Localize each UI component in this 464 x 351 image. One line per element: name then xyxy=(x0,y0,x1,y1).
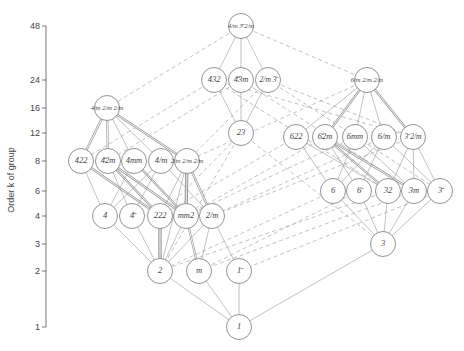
edge-32-2 xyxy=(160,191,388,271)
y-axis-label: Order k of group xyxy=(6,147,16,213)
node-label: 622 xyxy=(290,131,304,141)
node-label: 4/m 3̄ 2/m xyxy=(228,22,254,29)
node-label: m xyxy=(196,265,202,275)
point-group-node-m: m xyxy=(187,259,212,284)
point-group-node-3m: 3m xyxy=(402,179,427,204)
y-tick-label: 12 xyxy=(30,128,40,138)
point-group-node-m-3: 2/m 3̄ xyxy=(256,68,281,93)
point-group-node--42m: 4̄2m xyxy=(96,149,121,174)
point-group-node-6: 6 xyxy=(321,179,346,204)
point-group-node-622: 622 xyxy=(284,125,309,150)
point-group-node-2/m: 2/m xyxy=(200,204,225,229)
point-group-diagram: 48241612864321 Order k of group 4/m 3̄ 2… xyxy=(0,0,464,351)
edge-m3m-4/mmm xyxy=(107,26,241,108)
y-tick-label: 4 xyxy=(35,211,40,221)
node-label: 6/m 2/m 2/m xyxy=(351,76,384,83)
y-tick-label: 8 xyxy=(35,156,40,166)
node-label: 6̄2m xyxy=(318,131,333,141)
point-group-node-23: 23 xyxy=(229,121,254,146)
point-group-node-222: 222 xyxy=(148,204,173,229)
point-group-node--6: 6̄ xyxy=(347,179,372,204)
point-group-node-1: 1 xyxy=(227,315,252,340)
point-group-node-4/m: 4/m xyxy=(149,149,174,174)
node-label: 2/m 2/m 2/m xyxy=(171,157,204,164)
point-group-node--3m: 3̄ 2/m xyxy=(401,125,426,150)
point-group-node--43m: 4̄3m xyxy=(229,68,254,93)
point-group-node--6m2: 6̄2m xyxy=(313,125,338,150)
node-label: 4/m 2/m 2/m xyxy=(91,104,124,111)
y-tick-label: 16 xyxy=(30,103,40,113)
node-label: 6/m xyxy=(378,131,391,141)
point-group-node-6/m: 6/m xyxy=(372,125,397,150)
node-label: 4/m xyxy=(155,155,168,165)
node-label: 2/m 3̄ xyxy=(260,75,279,84)
node-label: 6mm xyxy=(347,131,364,141)
node-label: 3̄ 2/m xyxy=(404,132,422,141)
node-label: 432 xyxy=(208,74,222,84)
edge-622-222 xyxy=(160,137,296,216)
y-tick-label: 3 xyxy=(35,239,40,249)
point-group-node--3: 3̄ xyxy=(428,179,453,204)
node-label: 222 xyxy=(154,210,168,220)
point-group-node-m3m: 4/m 3̄ 2/m xyxy=(228,14,254,39)
y-tick-label: 24 xyxy=(30,75,40,85)
point-group-node-3: 3 xyxy=(371,232,396,257)
point-group-node-432: 432 xyxy=(202,68,227,93)
node-label: 3 xyxy=(380,238,385,248)
point-group-node-4mm: 4mm xyxy=(122,149,147,174)
y-tick-label: 1 xyxy=(35,322,40,332)
node-label: 2/m xyxy=(206,210,219,220)
point-group-node--4: 4̄ xyxy=(120,204,145,229)
node-label: 32 xyxy=(383,185,393,195)
node-label: mm2 xyxy=(178,210,195,220)
y-tick-label: 6 xyxy=(35,186,40,196)
point-group-node-422: 422 xyxy=(69,149,94,174)
y-axis: 48241612864321 Order k of group xyxy=(6,21,46,332)
node-label: 4̄2m xyxy=(101,155,116,165)
y-tick-label: 2 xyxy=(35,266,40,276)
node-label: 23 xyxy=(237,127,246,137)
point-group-node-mm2: mm2 xyxy=(174,204,199,229)
node-label: 4̄3m xyxy=(234,74,249,84)
point-group-node-6mm: 6mm xyxy=(343,125,368,150)
edge-3-1 xyxy=(239,244,383,327)
node-label: 3m xyxy=(408,185,419,195)
edge-4/mmm-mmm xyxy=(107,108,187,161)
point-group-node-2: 2 xyxy=(148,259,173,284)
node-label: 4mm xyxy=(126,155,143,165)
y-tick-label: 48 xyxy=(30,21,40,31)
node-label: 422 xyxy=(75,155,89,165)
point-group-node-4: 4 xyxy=(93,204,118,229)
point-group-node--1: 1̄ xyxy=(227,259,252,284)
node-label: 1 xyxy=(237,321,241,331)
point-group-node-32: 32 xyxy=(376,179,401,204)
